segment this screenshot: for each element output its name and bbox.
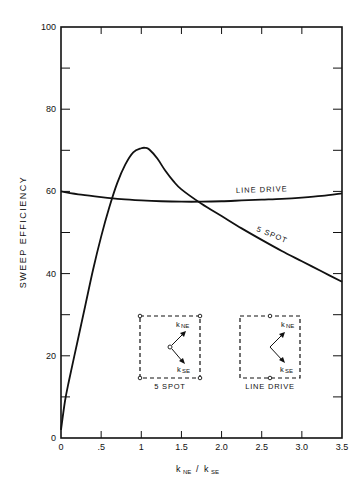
- y-axis-title: SWEEP EFFICIENCY: [18, 176, 28, 288]
- x-tick-label: 1: [139, 442, 144, 452]
- axis-tick-labels: 0.511.52.02.53.03.5020406080100: [41, 22, 348, 452]
- y-tick-label: 20: [46, 351, 56, 361]
- k-ne-subscript: NE: [181, 323, 189, 329]
- x-tick-label: 3.0: [296, 442, 309, 452]
- well-icon: [198, 314, 202, 318]
- inset-5spot-diagram: k NE k SE 5 SPOT: [138, 314, 202, 391]
- inset-line-drive-label: LINE DRIVE: [245, 382, 295, 391]
- line-drive-curve-label: LINE DRIVE: [236, 184, 288, 195]
- well-icon: [268, 376, 272, 380]
- x-axis-title-sub2: SE: [211, 469, 219, 475]
- sweep-efficiency-chart: 0.511.52.02.53.03.5020406080100 SWEEP EF…: [0, 0, 363, 489]
- y-tick-label: 0: [51, 433, 56, 443]
- five-spot-curve: [61, 148, 342, 430]
- k-se-subscript: SE: [285, 368, 293, 374]
- k-ne-label: k: [176, 320, 181, 329]
- well-icon: [268, 314, 272, 318]
- x-tick-label: 0: [58, 442, 63, 452]
- x-tick-label: 2.0: [215, 442, 228, 452]
- y-tick-label: 40: [46, 269, 56, 279]
- x-axis-title-k2: k: [204, 464, 210, 474]
- x-tick-label: .5: [97, 442, 105, 452]
- well-icon: [138, 314, 142, 318]
- well-icon: [138, 376, 142, 380]
- x-axis-title-slash: /: [196, 464, 200, 474]
- x-axis-title-k1: k: [176, 464, 182, 474]
- inset-5spot-label: 5 SPOT: [154, 382, 185, 391]
- x-axis-title: k NE / k SE: [176, 464, 219, 475]
- k-se-subscript: SE: [182, 368, 190, 374]
- well-icon: [198, 376, 202, 380]
- line-drive-curve: [61, 191, 342, 201]
- y-tick-label: 80: [46, 104, 56, 114]
- x-tick-label: 2.5: [255, 442, 268, 452]
- x-tick-label: 3.5: [336, 442, 349, 452]
- x-tick-label: 1.5: [175, 442, 188, 452]
- k-ne-label: k: [281, 320, 286, 329]
- k-se-label: k: [177, 365, 182, 374]
- k-se-label: k: [280, 365, 285, 374]
- y-tick-label: 100: [41, 22, 56, 32]
- y-tick-label: 60: [46, 186, 56, 196]
- inset-line-drive-diagram: k NE k SE LINE DRIVE: [240, 314, 300, 391]
- k-ne-subscript: NE: [286, 323, 294, 329]
- x-axis-title-sub1: NE: [183, 469, 191, 475]
- five-spot-curve-label: 5 SPOT: [255, 225, 289, 246]
- injector-well-icon: [168, 345, 172, 349]
